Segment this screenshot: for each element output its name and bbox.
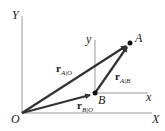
point-label-B: B [98, 94, 105, 106]
axis-label-y: y [86, 33, 91, 45]
vector-r-a-b [95, 47, 127, 93]
origin-label-O: O [11, 113, 20, 125]
axis-label-X: X [152, 113, 159, 125]
vector-label-r-a-o: rA|O [56, 63, 72, 77]
vector-r-a-o [22, 46, 126, 113]
point-label-A: A [135, 32, 142, 44]
relative-position-diagram: Y X O y x A B rA|O rA|B rB|O [0, 0, 165, 131]
point-b [93, 91, 98, 96]
vector-label-r-a-b: rA|B [115, 71, 130, 85]
point-a [128, 41, 133, 46]
axis-label-Y: Y [12, 9, 19, 21]
axis-label-x: x [146, 91, 151, 103]
fixed-axes [22, 16, 152, 113]
vector-label-r-b-o: rB|O [77, 100, 93, 114]
